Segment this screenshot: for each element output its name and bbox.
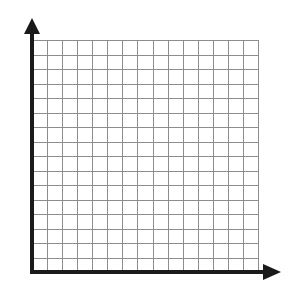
coordinate-grid-figure [0,0,286,297]
figure-canvas [0,0,286,297]
y-axis-arrowhead [24,18,40,34]
x-axis-arrowhead [263,264,281,280]
